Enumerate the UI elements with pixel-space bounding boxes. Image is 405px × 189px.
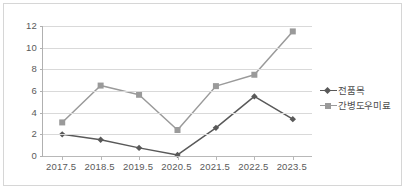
y-tickmark-0 [40,156,43,157]
x-tickmark-2019.5 [139,156,140,160]
data-point [98,83,104,89]
y-tick-label-4: 4 [7,108,37,118]
series-line-all-items [62,96,293,155]
legend-label-all-items: 전품목 [337,86,364,96]
x-tickmark-2021.5 [216,156,217,160]
data-point [136,92,142,98]
legend-label-caregiver-fee: 간병도우미료 [337,101,391,111]
y-tickmark-6 [40,91,43,92]
data-point [251,72,257,78]
chart-screenshot: 024681012 2017.52018.52019.52020.52021.5… [0,0,405,189]
y-tickmark-12 [40,26,43,27]
y-tickmark-8 [40,69,43,70]
data-point [175,127,181,133]
gridline-8 [43,69,312,70]
legend-item-caregiver-fee[interactable]: 간병도우미료 [320,98,405,113]
data-point [136,145,142,151]
legend-marker-square-icon [320,100,337,111]
legend-item-all-items[interactable]: 전품목 [320,83,405,98]
gridline-2 [43,134,312,135]
x-tickmark-2022.5 [254,156,255,160]
y-tick-label-10: 10 [7,43,37,53]
legend-marker-diamond-icon [320,85,337,96]
gridline-4 [43,113,312,114]
x-tickmark-2018.5 [101,156,102,160]
gridline-12 [43,26,312,27]
y-tick-label-8: 8 [7,64,37,74]
data-point [59,119,65,125]
chart-frame: 024681012 2017.52018.52019.52020.52021.5… [3,3,402,186]
y-tickmark-10 [40,48,43,49]
y-tick-label-6: 6 [7,86,37,96]
y-tick-label-2: 2 [7,129,37,139]
y-axis-labels: 024681012 [4,26,37,156]
plot-area [42,26,311,156]
data-point [213,83,219,89]
chart-legend: 전품목 간병도우미료 [320,83,405,113]
y-tick-label-12: 12 [7,21,37,31]
x-tickmark-2020.5 [178,156,179,160]
gridline-10 [43,48,312,49]
y-tickmark-4 [40,113,43,114]
gridline-6 [43,91,312,92]
x-axis-labels: 2017.52018.52019.52020.52021.52022.52023… [42,162,311,178]
x-tickmark-2017.5 [62,156,63,160]
x-tick-label-2023.5: 2023.5 [269,162,315,172]
data-point [97,137,103,143]
y-tickmark-2 [40,134,43,135]
y-tick-label-0: 0 [7,151,37,161]
data-point [290,28,296,34]
data-point [290,116,296,122]
series-line-caregiver-fee [62,31,293,130]
x-tickmark-2023.5 [293,156,294,160]
